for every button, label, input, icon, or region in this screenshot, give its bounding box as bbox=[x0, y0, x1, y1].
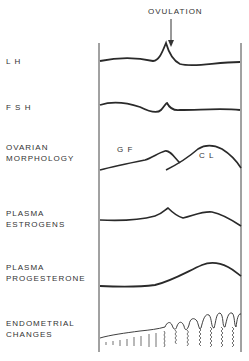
fsh-curve bbox=[100, 103, 240, 113]
row-label-progesterone: PLASMA PROGESTERONE bbox=[6, 262, 86, 284]
hormone-cycle-diagram bbox=[0, 0, 249, 361]
row-label-estrogens: PLASMA ESTROGENS bbox=[6, 208, 65, 230]
endometrial-surface-curve bbox=[100, 313, 241, 338]
row-label-ovarian: OVARIAN MORPHOLOGY bbox=[6, 142, 74, 164]
progesterone-curve bbox=[100, 263, 241, 287]
estrogens-curve bbox=[100, 208, 241, 226]
ovulation-label: OVULATION bbox=[148, 7, 203, 16]
row-label-endometrial: ENDOMETRIAL CHANGES bbox=[6, 318, 75, 340]
gf-label: G F bbox=[117, 145, 133, 154]
row-label-fsh: F S H bbox=[6, 102, 31, 113]
cl-label: C L bbox=[199, 151, 214, 160]
ovulation-arrow-head bbox=[168, 40, 174, 47]
graafian-follicle-curve bbox=[100, 151, 180, 170]
lh-curve bbox=[100, 43, 240, 65]
row-label-lh: L H bbox=[6, 56, 21, 67]
endometrial-glands bbox=[106, 327, 234, 347]
